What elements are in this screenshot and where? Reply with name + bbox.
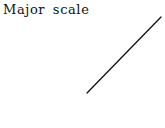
diagram-canvas xyxy=(0,0,165,128)
scale-line xyxy=(87,17,161,93)
